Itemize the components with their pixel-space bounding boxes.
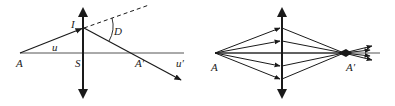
label-A: A [15, 57, 23, 69]
label-A: A [210, 61, 218, 73]
label-u-prime: u′ [176, 57, 185, 69]
label-u: u [52, 41, 58, 53]
label-S: S [75, 57, 81, 69]
focus-point-marker [338, 49, 352, 57]
left-diagram: I D u A S A′ u′ [15, 5, 185, 99]
label-A-prime: A′ [345, 61, 356, 73]
deviation-arc [109, 18, 113, 41]
right-diagram: A A′ [210, 7, 380, 99]
label-I: I [70, 18, 76, 30]
lens-arrow-up-icon [78, 7, 88, 17]
lens-arrow-down-icon [277, 89, 287, 99]
lens-arrow-down-icon [78, 89, 88, 99]
incident-rays [215, 28, 282, 79]
refracted-ray [84, 28, 181, 80]
label-A-prime: A′ [134, 57, 145, 69]
optics-figure: I D u A S A′ u′ [0, 0, 395, 106]
lens-arrow-up-icon [277, 7, 287, 17]
incident-ray [20, 29, 82, 54]
refracted-rays [282, 28, 344, 79]
label-D: D [113, 25, 122, 37]
